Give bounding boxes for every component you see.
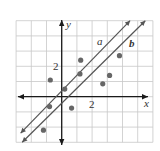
data-point — [41, 128, 46, 133]
line-b-label: b — [129, 37, 135, 49]
line-a — [21, 21, 130, 133]
x-axis-label: x — [143, 97, 149, 109]
y-axis-label: y — [65, 18, 71, 30]
scatter-plot: y x 2 2 a b — [0, 0, 160, 151]
data-point — [100, 81, 105, 86]
data-point — [78, 58, 83, 63]
x-axis-arrow-left-icon — [18, 94, 24, 99]
data-point — [47, 104, 52, 109]
data-point — [48, 77, 53, 82]
x-tick-label: 2 — [89, 98, 95, 110]
data-point — [69, 106, 74, 111]
line-a-label: a — [97, 35, 103, 47]
y-tick-label: 2 — [53, 60, 59, 72]
data-point — [117, 53, 122, 58]
data-point — [77, 71, 82, 76]
data-point — [62, 87, 67, 92]
data-point — [107, 73, 112, 78]
